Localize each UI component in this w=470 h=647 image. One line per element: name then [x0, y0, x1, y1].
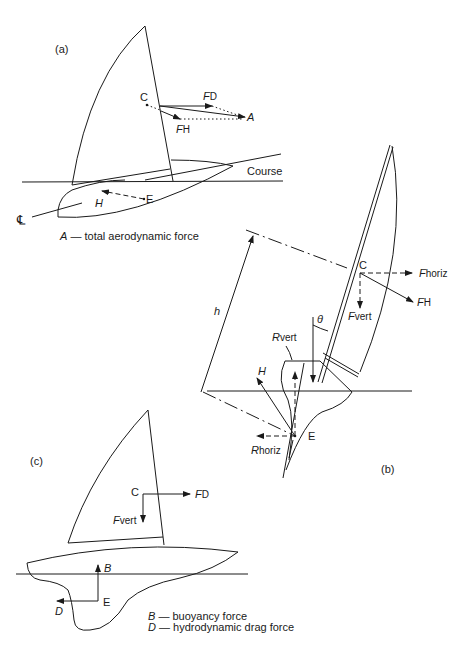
- panel-a: (a) Course ℄ E H C FD FH A A — total ae: [16, 26, 283, 242]
- boom-b-1: [323, 353, 359, 374]
- force-Rvert-label: Rvert: [272, 331, 297, 343]
- boom: [72, 169, 170, 185]
- force-H-label-b: H: [258, 365, 266, 377]
- force-Fhoriz-label: Fhoriz: [419, 267, 447, 279]
- point-C-label-b: C: [359, 259, 367, 271]
- force-FH-arrow: [161, 111, 180, 119]
- point-C-label-c: C: [131, 486, 139, 498]
- mast: [145, 26, 173, 181]
- course-label: Course: [247, 165, 282, 177]
- force-B-label: B: [104, 562, 111, 574]
- Rvert-leader: [286, 346, 292, 360]
- panel-a-label: (a): [55, 43, 68, 55]
- force-FH-arrow-b: [360, 273, 413, 302]
- dashdot-lower: [203, 392, 295, 436]
- point-E: [143, 198, 145, 200]
- hull-centerline-b: [283, 363, 304, 478]
- point-C-label: C: [140, 91, 148, 103]
- force-FD-label-c: FD: [195, 488, 209, 500]
- point-E-label-c: E: [103, 596, 110, 608]
- mast-b-1: [318, 145, 390, 382]
- theta-label: θ: [317, 313, 323, 325]
- hull-b-left: [281, 361, 292, 460]
- boom-c: [68, 537, 163, 543]
- centerline-symbol: ℄: [16, 212, 26, 227]
- extension-dotted: [147, 105, 160, 110]
- mast-c: [148, 410, 164, 545]
- mast-b-2: [322, 147, 393, 383]
- force-FH-label: FH: [176, 123, 190, 135]
- legend-item-drag: D — hydrodynamic drag force: [148, 621, 294, 633]
- force-Rhoriz-label: Rhoriz: [251, 444, 281, 456]
- force-D-label: D: [55, 605, 63, 617]
- force-Fvert-label-b: Fvert: [348, 310, 372, 322]
- force-Fvert-label-c: Fvert: [113, 514, 137, 526]
- hydro-force-H-arrow: [102, 191, 144, 199]
- panel-c-label: (c): [30, 455, 43, 467]
- sail-leech: [72, 26, 145, 185]
- panel-b: θ h C Fhoriz FH Fvert Rvert H Rhoriz E (…: [201, 145, 447, 478]
- point-E-label: E: [146, 193, 153, 205]
- panel-a-caption: A — total aerodynamic force: [59, 230, 199, 242]
- force-FD-label: FD: [203, 90, 217, 102]
- sailing-forces-diagram: (a) Course ℄ E H C FD FH A A — total ae: [0, 0, 470, 647]
- centerline: [32, 203, 82, 217]
- point-E-label-b: E: [308, 430, 315, 442]
- point-E-b: [294, 435, 297, 438]
- parallelogram-dot-1: [212, 106, 243, 117]
- height-dimension-arrow: [201, 236, 253, 392]
- dashdot-upper: [246, 230, 347, 268]
- force-A-label: A: [246, 111, 254, 123]
- height-label: h: [214, 305, 220, 317]
- force-H-label: H: [95, 197, 103, 209]
- force-FH-label-b: FH: [417, 296, 431, 308]
- force-A-arrow: [160, 106, 245, 117]
- waterline: [22, 181, 283, 182]
- hull-bottom: [58, 166, 233, 217]
- boom-b-2: [325, 358, 358, 377]
- theta-arc: [313, 325, 328, 331]
- panel-b-label: (b): [381, 463, 394, 475]
